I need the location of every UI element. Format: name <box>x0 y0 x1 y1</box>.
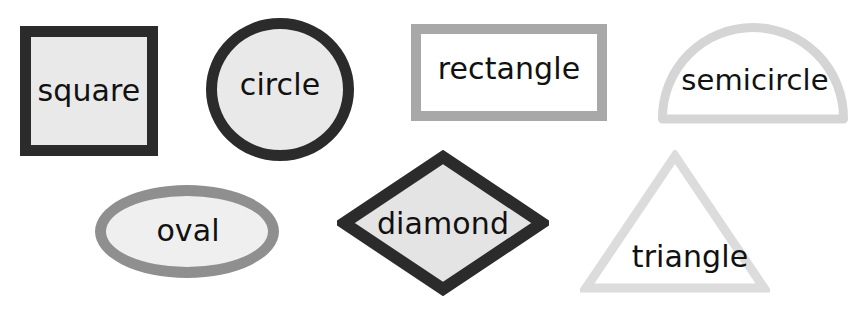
shapes-illustration: square circle rectangle semicircle oval … <box>0 0 856 317</box>
shape-square <box>20 26 158 156</box>
shape-circle <box>206 18 354 161</box>
shape-triangle <box>580 150 770 294</box>
shape-rectangle <box>411 24 607 121</box>
shape-semicircle <box>657 22 849 124</box>
shape-oval <box>95 185 279 278</box>
shape-diamond <box>337 150 549 296</box>
triangle-path <box>586 156 764 288</box>
diamond-path <box>344 157 542 289</box>
semicircle-path <box>663 28 844 120</box>
